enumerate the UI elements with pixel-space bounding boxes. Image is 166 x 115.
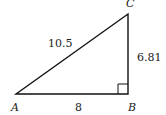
vertex-label-c: C [126,0,135,10]
side-label-bc: 6.81 [137,51,162,64]
right-angle-marker [118,84,128,94]
vertex-label-b: B [127,101,136,114]
triangle-abc [16,14,128,94]
vertex-label-a: A [10,101,19,114]
triangle-diagram: C 10.5 6.81 A 8 B [0,0,166,115]
side-label-ab: 8 [75,101,82,114]
side-label-ac: 10.5 [48,37,73,50]
